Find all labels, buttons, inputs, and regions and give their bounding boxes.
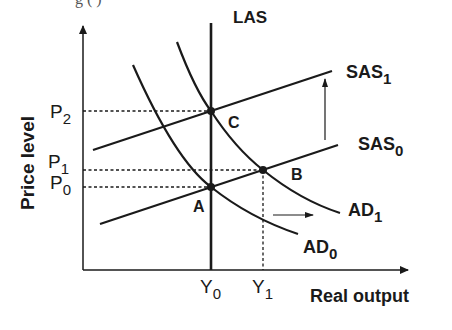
x-axis-label: Real output bbox=[310, 286, 409, 306]
ad-as-diagram: g ( ) A B C LAS SAS1 SAS0 AD1 AD0 P2 P1 … bbox=[0, 0, 452, 330]
point-c-dot bbox=[207, 107, 215, 115]
sas0-label: SAS0 bbox=[358, 134, 403, 159]
las-label: LAS bbox=[233, 8, 267, 27]
point-b-label: B bbox=[291, 166, 303, 183]
y1-tick-label: Y1 bbox=[252, 276, 273, 302]
y0-tick-label: Y0 bbox=[200, 276, 221, 302]
sas1-label: SAS1 bbox=[346, 62, 391, 87]
partial-caption: g ( ) bbox=[75, 0, 102, 8]
point-c-label: C bbox=[228, 114, 240, 131]
sas0-curve bbox=[100, 145, 338, 224]
point-b-dot bbox=[259, 166, 267, 174]
point-a-label: A bbox=[193, 198, 205, 215]
p2-tick-label: P2 bbox=[50, 101, 71, 127]
y-axis-label: Price level bbox=[17, 116, 38, 210]
ad1-label: AD1 bbox=[348, 200, 382, 225]
point-a-dot bbox=[207, 183, 215, 191]
ad0-label: AD0 bbox=[303, 237, 337, 262]
